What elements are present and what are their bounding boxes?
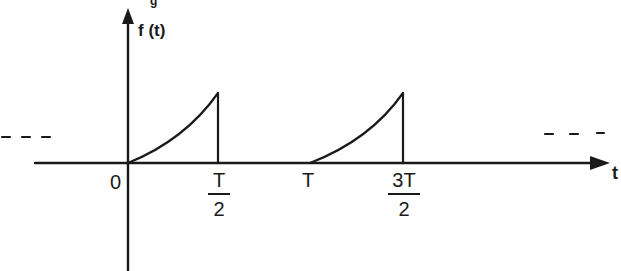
pulse-2-curve <box>310 93 403 163</box>
x-axis-label: t <box>612 164 618 182</box>
continuation-dashes-right <box>545 133 604 134</box>
pulse-1-curve <box>128 93 218 163</box>
origin-label: 0 <box>110 172 121 192</box>
top-fragment-1: g <box>150 0 158 8</box>
top-fragment-3: " <box>332 0 339 8</box>
x-axis-arrowhead <box>590 156 610 170</box>
tick-label-half-period: T 2 <box>208 170 230 219</box>
tick-numerator: T <box>213 170 225 193</box>
tick-denominator: 2 <box>398 195 409 219</box>
waveform-diagram <box>0 0 621 271</box>
y-axis-label: f (t) <box>138 22 165 39</box>
y-axis-arrowhead <box>122 8 134 24</box>
tick-label-period: T <box>302 170 314 190</box>
tick-denominator: 2 <box>213 195 224 219</box>
top-fragment-2: " <box>232 0 239 8</box>
tick-numerator: 3T <box>392 170 415 193</box>
tick-label-three-half-period: 3T 2 <box>388 170 420 219</box>
